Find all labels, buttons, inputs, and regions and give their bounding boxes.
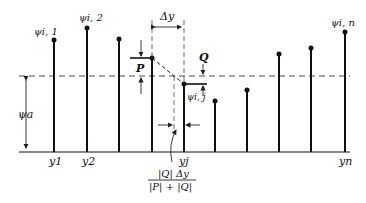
stems xyxy=(52,26,348,153)
formula-numerator: |Q| Δy xyxy=(158,168,189,180)
label-delta-y: Δy xyxy=(159,10,175,23)
label-psi-1: ψi, 1 xyxy=(34,26,58,37)
label-y1: y1 xyxy=(48,155,62,168)
label-psi-j: ψi, j xyxy=(187,92,206,102)
label-psi-a: ψa xyxy=(18,108,33,121)
label-psi-2: ψi, 2 xyxy=(79,12,103,23)
label-y2: y2 xyxy=(81,155,95,168)
formula-denominator: |P| + |Q| xyxy=(149,181,192,193)
interpolation-line xyxy=(152,58,184,84)
formula-pointer xyxy=(171,130,176,162)
label-psi-n: ψi, n xyxy=(331,17,355,28)
label-p: P xyxy=(135,62,145,75)
label-q: Q xyxy=(199,51,209,64)
label-yj: yj xyxy=(178,155,189,168)
stem-diagram: ψi, 1 ψi, 2 ψi, j ψi, n ψa Δy P Q y1 y2 … xyxy=(0,0,366,203)
label-yn: yn xyxy=(338,155,352,168)
